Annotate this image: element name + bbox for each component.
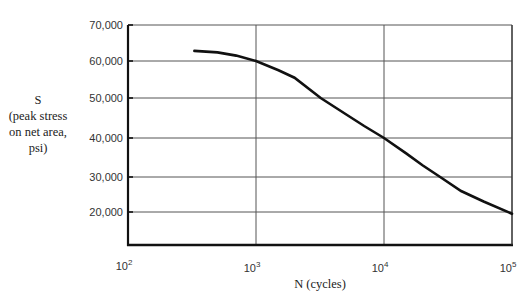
x-tick-exponent: 2 <box>128 258 133 267</box>
x-tick-exponent: 4 <box>384 260 389 269</box>
y-tick-label: 70,000 <box>89 19 123 31</box>
x-axis-title: N (cycles) <box>294 277 346 291</box>
gridlines <box>128 25 512 245</box>
x-tick-label: 103 <box>244 260 261 274</box>
x-tick-exponent: 3 <box>256 260 261 269</box>
y-axis-title-line: on net area, <box>9 125 67 139</box>
y-axis-title: S(peak stresson net area,psi) <box>9 93 68 155</box>
y-tick-label: 30,000 <box>89 171 123 183</box>
x-tick-label: 104 <box>372 260 389 274</box>
y-axis-title-line: (peak stress <box>9 109 68 123</box>
x-tick-label: 105 <box>500 260 517 274</box>
y-tick-label: 60,000 <box>89 55 123 67</box>
sn-curve-line <box>194 51 512 214</box>
sn-chart: 70,00060,00050,00040,00030,00020,000 102… <box>0 0 531 300</box>
x-tick-label: 102 <box>116 258 133 272</box>
y-tick-label: 20,000 <box>89 206 123 218</box>
y-axis-title-line: S <box>35 93 42 107</box>
y-axis-title-line: psi) <box>29 141 48 155</box>
y-tick-label: 40,000 <box>89 132 123 144</box>
y-tick-label: 50,000 <box>89 92 123 104</box>
y-axis-ticks: 70,00060,00050,00040,00030,00020,000 <box>89 19 133 218</box>
x-tick-exponent: 5 <box>512 260 517 269</box>
x-axis-ticks: 102103104105 <box>116 258 517 274</box>
plot-frame <box>127 25 513 246</box>
